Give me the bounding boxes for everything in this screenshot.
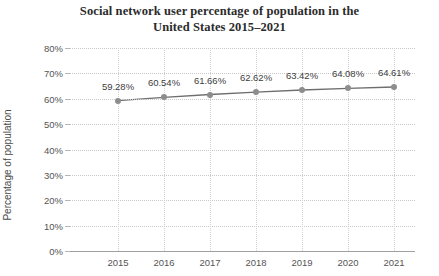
y-axis-tick-label: 20%: [44, 195, 63, 206]
gridline-vertical: [394, 48, 395, 251]
chart-title-line-2: United States 2015–2021: [0, 20, 439, 36]
data-point-label: 60.54%: [148, 77, 180, 88]
data-point-marker[interactable]: [207, 92, 213, 98]
y-axis-tick: [65, 124, 70, 125]
y-axis-tick: [65, 251, 70, 252]
y-axis-tick-label: 80%: [44, 43, 63, 54]
data-point-label: 63.42%: [286, 70, 318, 81]
data-point-marker[interactable]: [115, 98, 121, 104]
x-axis-tick-label: 2021: [383, 257, 404, 268]
y-axis-tick: [65, 150, 70, 151]
gridline-horizontal: [70, 99, 415, 100]
x-axis-line: [70, 251, 415, 252]
data-point-label: 62.62%: [240, 72, 272, 83]
gridline-horizontal: [70, 48, 415, 49]
gridline-vertical: [118, 48, 119, 251]
chart-title: Social network user percentage of popula…: [0, 4, 439, 35]
plot-area: 0%10%20%30%40%50%60%70%80%20152016201720…: [70, 48, 415, 251]
gridline-horizontal: [70, 175, 415, 176]
x-axis-tick-label: 2019: [291, 257, 312, 268]
gridline-horizontal: [70, 200, 415, 201]
y-axis-tick: [65, 175, 70, 176]
y-axis-title: Percentage of population: [2, 109, 13, 220]
chart-container: Social network user percentage of popula…: [0, 0, 439, 276]
y-axis-tick-label: 60%: [44, 93, 63, 104]
x-axis-tick-label: 2018: [245, 257, 266, 268]
y-axis-tick: [65, 99, 70, 100]
x-axis-tick-label: 2017: [199, 257, 220, 268]
y-axis-tick-label: 10%: [44, 220, 63, 231]
data-point-label: 64.61%: [378, 67, 410, 78]
data-point-label: 59.28%: [102, 81, 134, 92]
y-axis-tick: [65, 200, 70, 201]
gridline-horizontal: [70, 150, 415, 151]
data-point-label: 61.66%: [194, 75, 226, 86]
y-axis-tick: [65, 48, 70, 49]
y-axis-tick-label: 0%: [49, 246, 63, 257]
data-point-marker[interactable]: [391, 84, 397, 90]
y-axis-tick-label: 30%: [44, 169, 63, 180]
x-axis-tick-label: 2015: [107, 257, 128, 268]
chart-title-line-1: Social network user percentage of popula…: [0, 4, 439, 20]
y-axis-tick-label: 70%: [44, 68, 63, 79]
y-axis-tick: [65, 226, 70, 227]
gridline-horizontal: [70, 124, 415, 125]
y-axis-tick-label: 40%: [44, 144, 63, 155]
x-axis-tick-label: 2016: [153, 257, 174, 268]
gridline-horizontal: [70, 226, 415, 227]
y-axis-tick: [65, 73, 70, 74]
x-axis-tick-label: 2020: [337, 257, 358, 268]
data-point-label: 64.08%: [332, 68, 364, 79]
y-axis-tick-label: 50%: [44, 119, 63, 130]
